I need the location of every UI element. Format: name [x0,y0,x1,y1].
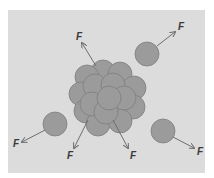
nucleon [97,86,121,110]
free-nucleon [151,119,175,143]
nuclear-force-diagram: FFFFFF [0,0,214,178]
free-nucleon [43,112,67,136]
force-label: F [130,150,137,161]
free-nucleon [135,42,159,66]
force-label: F [178,21,185,32]
force-label: F [13,138,20,149]
force-label: F [197,146,204,157]
force-label: F [76,31,83,42]
force-label: F [67,150,74,161]
